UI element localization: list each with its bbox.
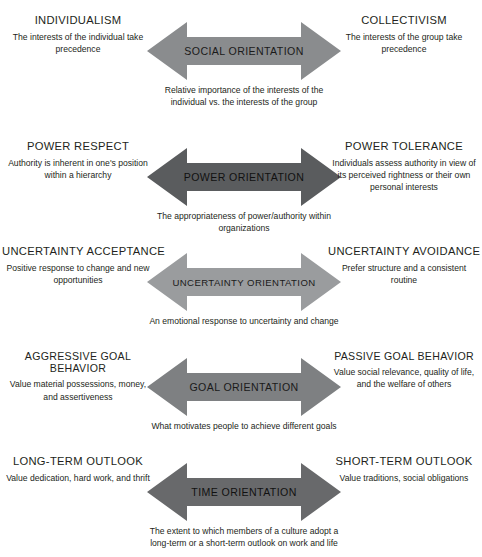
double-arrow-icon <box>147 146 341 208</box>
arrow-caption-power: The appropriateness of power/authority w… <box>147 210 341 235</box>
diagram-row-uncertainty: Uncertainty Acceptance Positive response… <box>0 245 482 350</box>
right-pole-title: Uncertainty Avoidance <box>328 245 480 258</box>
left-pole-description: Positive response to change and new oppo… <box>2 262 154 286</box>
double-arrow-icon <box>147 461 341 523</box>
cultural-orientation-diagram: Individualism The interests of the indiv… <box>0 0 482 557</box>
left-pole-title: Uncertainty Acceptance <box>2 245 154 258</box>
right-pole-description: Prefer structure and a consistent routin… <box>328 262 480 286</box>
right-pole-description: Individuals assess authority in view of … <box>328 157 480 194</box>
left-pole-description: Authority is inherent in one's position … <box>2 157 154 181</box>
diagram-row-goal: Aggressive Goal Behavior Value material … <box>0 350 482 455</box>
right-pole-power: Power Tolerance Individuals assess autho… <box>328 140 480 193</box>
left-pole-uncertainty: Uncertainty Acceptance Positive response… <box>2 245 154 286</box>
diagram-row-time: Long-Term Outlook Value dedication, hard… <box>0 455 482 557</box>
left-pole-description: The interests of the individual take pre… <box>2 31 154 55</box>
left-pole-title: Individualism <box>2 14 154 27</box>
right-pole-goal: Passive Goal Behavior Value social relev… <box>328 350 480 391</box>
left-pole-goal: Aggressive Goal Behavior Value material … <box>2 350 154 403</box>
right-pole-uncertainty: Uncertainty Avoidance Prefer structure a… <box>328 245 480 286</box>
left-pole-time: Long-Term Outlook Value dedication, hard… <box>2 455 154 484</box>
left-pole-title: Aggressive Goal Behavior <box>2 350 154 374</box>
right-pole-description: Value social relevance, quality of life,… <box>328 366 480 390</box>
right-pole-title: Power Tolerance <box>328 140 480 153</box>
diagram-row-social: Individualism The interests of the indiv… <box>0 14 482 119</box>
diagram-row-power: Power Respect Authority is inherent in o… <box>0 140 482 245</box>
arrow-caption-goal: What motivates people to achieve differe… <box>147 420 341 432</box>
right-pole-description: The interests of the group take preceden… <box>328 31 480 55</box>
double-arrow-power: Power Orientation <box>147 146 341 208</box>
left-pole-power: Power Respect Authority is inherent in o… <box>2 140 154 181</box>
right-pole-time: Short-Term Outlook Value traditions, soc… <box>328 455 480 484</box>
left-pole-social: Individualism The interests of the indiv… <box>2 14 154 55</box>
arrow-caption-social: Relative importance of the interests of … <box>147 84 341 109</box>
right-pole-description: Value traditions, social obligations <box>328 472 480 484</box>
double-arrow-goal: Goal Orientation <box>147 356 341 418</box>
double-arrow-time: Time Orientation <box>147 461 341 523</box>
left-pole-description: Value dedication, hard work, and thrift <box>2 472 154 484</box>
double-arrow-social: Social Orientation <box>147 20 341 82</box>
left-pole-description: Value material possessions, money, and a… <box>2 378 154 402</box>
arrow-caption-time: The extent to which members of a culture… <box>147 525 341 550</box>
double-arrow-icon <box>147 251 341 313</box>
double-arrow-icon <box>147 20 341 82</box>
double-arrow-uncertainty: Uncertainty Orientation <box>147 251 341 313</box>
right-pole-title: Short-Term Outlook <box>328 455 480 468</box>
left-pole-title: Power Respect <box>2 140 154 153</box>
arrow-caption-uncertainty: An emotional response to uncertainty and… <box>147 315 341 327</box>
left-pole-title: Long-Term Outlook <box>2 455 154 468</box>
double-arrow-icon <box>147 356 341 418</box>
right-pole-social: Collectivism The interests of the group … <box>328 14 480 55</box>
right-pole-title: Passive Goal Behavior <box>328 350 480 362</box>
right-pole-title: Collectivism <box>328 14 480 27</box>
